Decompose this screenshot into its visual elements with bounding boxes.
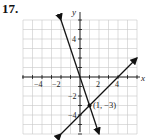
y-tick-label: −2 — [68, 92, 77, 101]
x-tick-label: −2 — [52, 80, 61, 89]
y-axis-label: y — [71, 7, 76, 17]
x-tick-label: −4 — [34, 80, 43, 89]
x-tick-label: 4 — [115, 80, 119, 89]
intersection-label: (1, −3) — [93, 100, 116, 110]
coordinate-graph: x y −4 −2 2 4 4 −2 −4 (1, −3) — [0, 0, 150, 140]
x-tick-label: 2 — [96, 80, 100, 89]
x-axis-label: x — [140, 73, 145, 83]
y-tick-label: −4 — [68, 111, 77, 120]
y-tick-label: 4 — [72, 35, 76, 44]
intersection-point — [88, 104, 92, 108]
